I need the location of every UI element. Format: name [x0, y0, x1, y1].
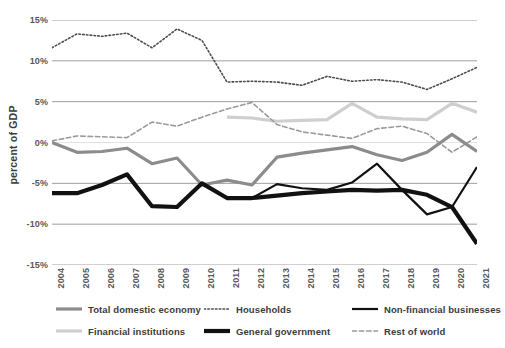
x-axis-tick-label: 2004	[56, 268, 66, 288]
x-axis-tick-label: 2015	[331, 268, 341, 288]
x-axis-tick-label: 2018	[406, 268, 416, 288]
x-axis-tick-label: 2016	[356, 268, 366, 288]
series-line	[227, 103, 477, 121]
x-axis-tick-label: 2013	[281, 268, 291, 288]
y-axis-tick-label: 15%	[14, 15, 48, 25]
legend-label: Non-financial businesses	[384, 304, 501, 315]
legend-item[interactable]: Financial institutions	[56, 326, 204, 337]
chart-legend: Total domestic economyHouseholdsNon-fina…	[56, 298, 484, 344]
y-axis-tick-label: -15%	[14, 260, 48, 270]
x-axis-tick-label: 2017	[381, 268, 391, 288]
legend-swatch-icon	[204, 304, 230, 314]
x-axis-tick-label: 2011	[231, 268, 241, 288]
x-axis-tick-label: 2010	[206, 268, 216, 288]
x-axis-tick-label: 2021	[481, 268, 491, 288]
y-axis-tick-label: 0%	[14, 138, 48, 148]
y-axis-tick-label: -10%	[14, 219, 48, 229]
plot-area	[52, 20, 477, 265]
y-axis-tick-label: -5%	[14, 178, 48, 188]
x-axis-tick-label: 2019	[431, 268, 441, 288]
x-axis-tick-label: 2006	[106, 268, 116, 288]
x-axis-tick-label: 2008	[156, 268, 166, 288]
legend-swatch-icon	[352, 304, 378, 314]
x-axis-tick-label: 2020	[456, 268, 466, 288]
series-line	[52, 102, 477, 152]
y-axis-tick-label: 10%	[14, 56, 48, 66]
legend-label: General government	[236, 326, 330, 337]
legend-item[interactable]: Households	[204, 304, 352, 315]
x-axis-tick-label: 2014	[306, 268, 316, 288]
series-line	[52, 29, 477, 89]
legend-item[interactable]: Total domestic economy	[56, 304, 204, 315]
y-axis-tick-label: 5%	[14, 97, 48, 107]
legend-label: Financial institutions	[88, 326, 185, 337]
legend-label: Total domestic economy	[88, 304, 201, 315]
x-axis-tick-label: 2009	[181, 268, 191, 288]
x-axis-ticks: 2004200520062007200820092010201120122013…	[52, 268, 477, 302]
series-line	[52, 174, 477, 243]
legend-item[interactable]: Rest of world	[352, 326, 505, 337]
plot-svg	[52, 20, 477, 265]
legend-label: Rest of world	[384, 326, 445, 337]
legend-swatch-icon	[56, 326, 82, 336]
x-axis-tick-label: 2005	[81, 268, 91, 288]
legend-swatch-icon	[352, 326, 378, 336]
legend-item[interactable]: General government	[204, 326, 352, 337]
legend-swatch-icon	[204, 326, 230, 336]
y-axis-ticks: 15%10%5%0%-5%-10%-15%	[14, 0, 48, 348]
x-axis-tick-label: 2012	[256, 268, 266, 288]
legend-item[interactable]: Non-financial businesses	[352, 304, 505, 315]
legend-label: Households	[236, 304, 291, 315]
x-axis-tick-label: 2007	[131, 268, 141, 288]
legend-swatch-icon	[56, 304, 82, 314]
